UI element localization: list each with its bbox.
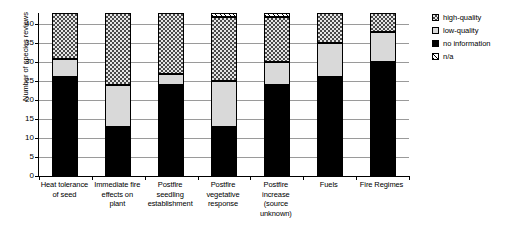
bar-segment-high [317,13,343,43]
bar-segment-low [211,81,237,126]
y-tick-mark [35,43,39,44]
legend-swatch-icon [432,14,439,21]
y-tick-mark [35,157,39,158]
bar-segment-low [158,74,184,85]
bar-segment-na [211,13,237,17]
x-label-line: increase [262,190,290,199]
y-tick-label: 0 [30,172,34,180]
x-label-line: Heat tolerance [41,180,88,189]
plot-area: 0510152025303540 [38,13,409,177]
x-label-line: response [208,199,238,208]
bar-segment-noinfo [52,77,78,176]
stacked-bar [105,13,131,176]
legend-swatch-icon [432,27,439,34]
x-label-line: establishment [148,199,193,208]
bar-segment-high [370,13,396,32]
stacked-bar [52,13,78,176]
legend-item: no information [432,37,510,50]
stacked-bar [211,13,237,176]
legend-item: high-quality [432,11,510,24]
bar-segment-noinfo [370,62,396,176]
bar-segment-high [52,13,78,58]
x-label-line: effects on [102,190,133,199]
bar-segment-low [370,32,396,62]
x-label-line: vegetative [206,190,239,199]
bar-segment-high [105,13,131,85]
y-tick-label: 30 [25,58,34,66]
bar-segment-low [52,59,78,78]
y-tick-label: 20 [25,96,34,104]
y-tick-label: 25 [25,77,34,85]
x-label-line: Fire Regimes [360,180,403,189]
stacked-bar [264,13,290,176]
bar-segment-na [264,13,290,17]
legend-label: high-quality [443,13,481,22]
stacked-bar-chart: Number of species reviews 05101520253035… [0,0,510,231]
x-axis-label: Fire Regimes [348,180,416,190]
bar-segment-low [105,85,131,127]
chart-legend: high-qualitylow-qualityno informationn/a [432,11,510,63]
y-tick-label: 10 [25,134,34,142]
bar-segment-noinfo [158,85,184,176]
x-label-line: plant [109,199,125,208]
y-tick-label: 35 [25,39,34,47]
bar-segment-low [264,62,290,85]
x-label-line: (source [264,199,288,208]
bar-segment-high [211,17,237,81]
y-tick-mark [35,62,39,63]
bar-segment-noinfo [317,77,343,176]
legend-label: n/a [443,52,453,61]
legend-label: no information [443,39,491,48]
x-label-line: Postfire [158,180,183,189]
x-label-line: seedling [157,190,184,199]
legend-item: low-quality [432,24,510,37]
bar-segment-high [264,17,290,62]
bar-segment-noinfo [105,127,131,176]
x-label-line: of seed [52,190,76,199]
bar-segment-noinfo [264,85,290,176]
bar-segment-noinfo [211,127,237,176]
y-tick-label: 15 [25,115,34,123]
legend-swatch-icon [432,40,439,47]
y-tick-label: 5 [30,153,34,161]
legend-label: low-quality [443,26,478,35]
stacked-bar [317,13,343,176]
x-axis-labels: Heat toleranceof seedImmediate fireeffec… [38,180,408,228]
x-label-line: Fuels [320,180,338,189]
x-label-line: Immediate fire [94,180,140,189]
bar-segment-high [158,13,184,74]
y-tick-mark [35,81,39,82]
y-tick-mark [35,119,39,120]
legend-item: n/a [432,50,510,63]
y-tick-mark [35,24,39,25]
legend-swatch-icon [432,53,439,60]
bar-segment-low [317,43,343,77]
x-label-line: Postfire [264,180,289,189]
y-tick-mark [35,100,39,101]
stacked-bar [158,13,184,176]
y-tick-label: 40 [25,20,34,28]
x-label-line: Postfire [211,180,236,189]
y-tick-mark [35,138,39,139]
x-label-line: unknown) [260,209,292,218]
stacked-bar [370,13,396,176]
